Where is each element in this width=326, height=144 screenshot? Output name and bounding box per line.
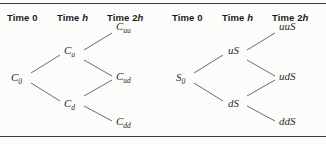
node-option-up-sub: u (71, 50, 75, 59)
node-stock-root-sub: 0 (182, 77, 186, 86)
node-option-root: C0 (11, 71, 22, 83)
header-time-2h-var: h (138, 12, 144, 23)
branch-root-up (194, 55, 223, 73)
header-time-2h-var: h (303, 12, 309, 23)
node-option-root-sub: 0 (18, 77, 22, 86)
node-stock-up-down-base: udS (279, 70, 296, 82)
branch-down-downdown (247, 106, 275, 121)
node-option-up-down-sub: ud (123, 76, 131, 85)
node-stock-up-base: uS (228, 44, 239, 56)
node-option-down-down-sub: dd (123, 121, 131, 130)
header-time-h: Time h (222, 12, 253, 23)
node-stock-root: S0 (176, 71, 185, 83)
node-stock-down-down-base: ddS (279, 115, 296, 127)
node-option-up: Cu (64, 44, 75, 56)
branch-down-downdown (84, 106, 112, 121)
header-time-h-prefix: Time (222, 12, 247, 23)
node-stock-root-base: S (176, 71, 182, 83)
header-time-h-var: h (247, 12, 253, 23)
branch-down-updown (247, 80, 275, 96)
stock-price-tree: Time 0 Time h Time 2h S0 uS dS uuS udS d… (163, 0, 326, 144)
header-time-h: Time h (57, 12, 88, 23)
node-stock-down-down: ddS (279, 115, 296, 127)
node-stock-up-up: uuS (279, 20, 296, 32)
header-time-0: Time 0 (172, 12, 203, 23)
branch-root-up (31, 55, 60, 73)
header-time-h-var: h (82, 12, 88, 23)
node-stock-down: dS (228, 97, 239, 109)
branch-up-updown (84, 60, 112, 76)
node-stock-up-down: udS (279, 70, 296, 82)
node-stock-up-up-base: uuS (279, 20, 296, 32)
node-option-down-sub: d (71, 103, 75, 112)
node-option-down: Cd (64, 97, 75, 109)
node-stock-down-base: dS (228, 97, 239, 109)
node-option-up-up-sub: uu (123, 26, 131, 35)
branch-root-down (31, 83, 60, 101)
branch-root-down (194, 83, 223, 101)
node-option-up-up: Cuu (116, 20, 131, 32)
node-option-down-down: Cdd (116, 115, 131, 127)
node-option-up-down: Cud (116, 70, 131, 82)
binomial-tree-figure: Time 0 Time h Time 2h C0 Cu Cd Cuu Cud C… (0, 0, 326, 144)
header-time-0: Time 0 (7, 12, 38, 23)
branch-up-upup (84, 33, 112, 50)
branch-up-upup (247, 33, 275, 50)
branch-up-updown (247, 60, 275, 76)
option-value-tree: Time 0 Time h Time 2h C0 Cu Cd Cuu Cud C… (0, 0, 163, 144)
branch-down-updown (84, 80, 112, 96)
node-stock-up: uS (228, 44, 239, 56)
header-time-h-prefix: Time (57, 12, 82, 23)
